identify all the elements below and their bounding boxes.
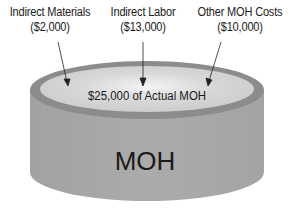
moh-body-text: MOH <box>115 146 176 176</box>
label-amount: ($13,000) <box>101 20 185 35</box>
label-amount: ($2,000) <box>4 20 96 35</box>
label-indirect-materials: Indirect Materials ($2,000) <box>4 5 96 35</box>
actual-moh-text: $25,000 of Actual MOH <box>88 89 206 103</box>
label-name: Other MOH Costs <box>198 5 283 19</box>
label-name: Indirect Labor <box>111 5 176 19</box>
label-name: Indirect Materials <box>10 5 91 19</box>
label-amount: ($10,000) <box>194 20 286 35</box>
label-indirect-labor: Indirect Labor ($13,000) <box>101 5 185 35</box>
label-other-moh-costs: Other MOH Costs ($10,000) <box>194 5 286 35</box>
